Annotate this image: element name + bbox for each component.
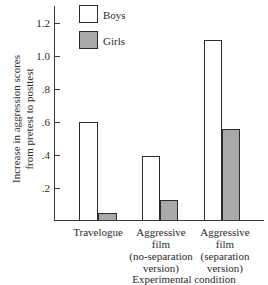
bar-no-separation-boys <box>142 156 160 220</box>
legend-label-girls: Girls <box>103 35 125 47</box>
bar-travelogue-boys <box>79 122 98 220</box>
y-tick-label: .4 <box>22 149 50 161</box>
y-tick <box>55 155 60 156</box>
x-axis-label: Experimental condition <box>100 273 268 285</box>
legend-label-boys: Boys <box>103 9 126 21</box>
legend-swatch-girls <box>79 31 98 49</box>
y-tick <box>55 56 60 57</box>
y-tick <box>55 23 60 24</box>
y-tick <box>55 89 60 90</box>
y-tick-label: .6 <box>22 116 50 128</box>
y-tick <box>55 188 60 189</box>
bar-no-separation-girls <box>160 200 178 220</box>
y-tick-label: .8 <box>22 83 50 95</box>
category-label-no-separation: Aggressive film (no-separation version) <box>122 226 200 274</box>
y-tick <box>55 122 60 123</box>
y-tick-label: .2 <box>22 182 50 194</box>
legend-swatch-boys <box>79 5 98 23</box>
y-tick-label: 1.0 <box>22 50 50 62</box>
bar-travelogue-girls <box>98 213 117 220</box>
category-label-separation: Aggressive film (separation version) <box>190 226 260 274</box>
x-axis-line <box>54 220 264 221</box>
y-tick-label: 1.2 <box>22 17 50 29</box>
bar-separation-girls <box>222 129 240 220</box>
bar-separation-boys <box>204 40 222 220</box>
